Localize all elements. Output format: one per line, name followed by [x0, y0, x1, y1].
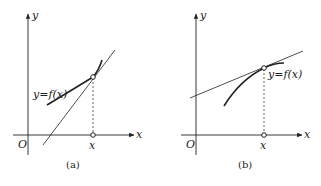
- point-x-label: x: [260, 139, 267, 152]
- panel-b: y x O x y=f(x) (b): [181, 9, 311, 170]
- y-axis-label: y: [31, 9, 39, 22]
- origin-label: O: [186, 138, 195, 151]
- tangent-point: [91, 75, 96, 80]
- x-point: [91, 133, 96, 138]
- origin-label: O: [18, 138, 27, 151]
- y-axis-label: y: [199, 9, 207, 22]
- curve-label: y=f(x): [267, 68, 302, 81]
- diagram-canvas: y x O x y=f(x) (a) y x O x y=f(x) (b): [0, 0, 321, 186]
- x-axis-label: x: [136, 128, 143, 141]
- panel-a: y x O x y=f(x) (a): [13, 9, 143, 170]
- panel-caption: (a): [66, 159, 80, 170]
- curve-label: y=f(x): [32, 88, 67, 101]
- x-point: [262, 133, 267, 138]
- x-axis-label: x: [304, 128, 311, 141]
- point-x-label: x: [89, 139, 96, 152]
- panel-caption: (b): [238, 159, 252, 170]
- tangent-point: [262, 66, 267, 71]
